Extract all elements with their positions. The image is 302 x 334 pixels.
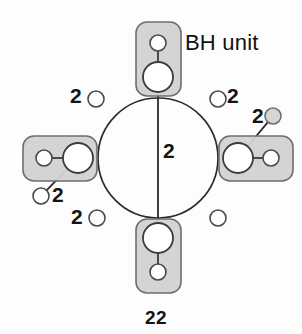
pendant-node-left-lower[interactable] <box>33 188 49 204</box>
label-center-chord: 2 <box>163 140 174 161</box>
figure-caption: 22 <box>136 308 176 327</box>
ring-node-bottom-right[interactable] <box>210 210 226 226</box>
ring-node-top-right[interactable] <box>210 91 226 107</box>
bottom-hub-node[interactable] <box>143 223 173 253</box>
right-unit-pendant-node[interactable] <box>263 150 279 166</box>
figure-canvas: 2 2 2 2 2 2 BH unit 22 <box>0 0 302 334</box>
left-unit-pendant-node[interactable] <box>36 150 52 166</box>
bottom-unit-pendant-node[interactable] <box>150 264 166 280</box>
label-pendant-node-left-lower: 2 <box>52 184 63 205</box>
top-hub-node[interactable] <box>143 62 173 92</box>
label-ring-node-top-right: 2 <box>227 85 238 106</box>
pendant-node-right-upper[interactable] <box>265 108 281 124</box>
label-ring-node-top-left: 2 <box>70 85 81 106</box>
right-hub-node[interactable] <box>223 143 253 173</box>
label-ring-node-bottom-left: 2 <box>71 206 82 227</box>
ring-node-bottom-left[interactable] <box>89 210 105 226</box>
left-hub-node[interactable] <box>63 143 93 173</box>
ring-nodes <box>88 91 226 226</box>
ring-node-top-left[interactable] <box>88 91 104 107</box>
bh-unit-annotation-label: BH unit <box>185 32 259 54</box>
label-pendant-node-right-upper: 2 <box>252 105 263 126</box>
top-unit-pendant-node[interactable] <box>150 35 166 51</box>
